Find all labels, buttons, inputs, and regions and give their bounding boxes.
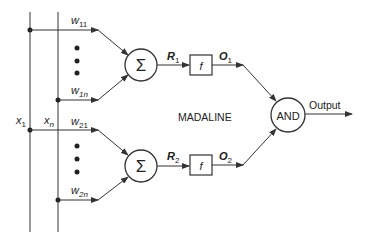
weight-label-w11: w11 — [71, 14, 88, 29]
input-label-x1: x1 — [15, 114, 27, 129]
connector — [98, 177, 128, 200]
connector — [243, 129, 276, 165]
weight-label-w2n: w2n — [71, 184, 88, 199]
connector — [243, 65, 276, 101]
output-unit-label-o1: O1 — [219, 50, 233, 65]
sigma-symbol: Σ — [136, 56, 147, 75]
and-label: AND — [276, 110, 299, 122]
madaline-diagram: Σ Σ f f AND Output MADALINE x1 xn w11 w1… — [0, 0, 365, 244]
input-label-xn: xn — [43, 114, 55, 129]
response-label-r1: R1 — [167, 50, 180, 65]
sigma-symbol: Σ — [136, 157, 147, 176]
output-label: Output — [309, 99, 341, 111]
connector — [98, 30, 128, 55]
ellipsis-dots-bottom — [75, 144, 80, 175]
output-unit-label-o2: O2 — [219, 150, 233, 165]
connector — [98, 75, 128, 100]
weight-label-w1n: w1n — [71, 84, 88, 99]
connector — [98, 130, 128, 155]
response-label-r2: R2 — [167, 150, 180, 165]
diagram-title: MADALINE — [178, 111, 232, 123]
weight-label-w21: w21 — [71, 115, 88, 130]
ellipsis-dots-top — [75, 46, 80, 76]
